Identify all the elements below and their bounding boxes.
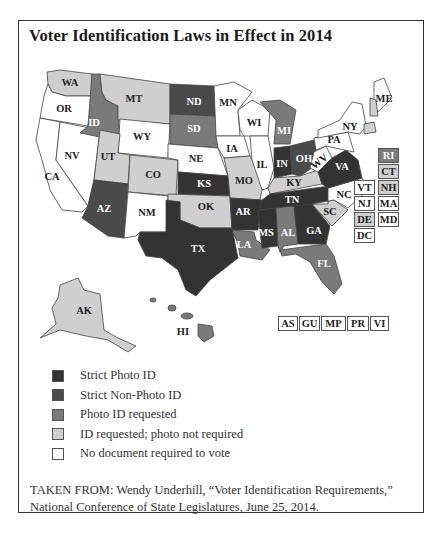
source-citation: TAKEN FROM: Wendy Underhill, “Voter Iden… [30,482,420,516]
state-label-AL: AL [281,227,296,238]
state-label-MT: MT [126,93,143,104]
state-label-IA: IA [226,143,238,154]
state-box-NJ: NJ [354,196,375,211]
state-label-AR: AR [235,206,251,217]
territory-box-VI: VI [370,316,389,331]
state-label-FL: FL [317,258,330,269]
legend-swatch [52,448,64,460]
state-label-MI: MI [277,125,291,136]
state-FL [280,244,342,294]
source-line-1: TAKEN FROM: Wendy Underhill, “Voter Iden… [30,482,420,499]
state-label-UT: UT [101,151,116,162]
state-label-NC: NC [336,189,351,200]
territory-box-GU: GU [299,316,320,331]
legend-label: Strict Non-Photo ID [80,388,181,403]
state-CT-map [364,122,376,134]
legend-label: Photo ID requested [80,407,177,422]
state-label-MS: MS [258,227,274,238]
state-label-IL: IL [256,159,267,170]
legend-swatch [52,389,64,401]
state-box-RI: RI [378,148,399,163]
legend-label: Strict Photo ID [80,368,156,383]
state-label-WY: WY [133,131,152,142]
state-label-AK: AK [76,305,93,316]
state-box-VT: VT [354,180,375,195]
state-label-TX: TX [191,243,206,254]
legend-label: ID requested; photo not required [80,427,243,442]
state-label-CA: CA [44,171,60,182]
state-label-ME: ME [376,93,393,104]
state-label-LA: LA [237,239,252,250]
state-label-IN: IN [276,158,288,169]
legend-item-strict-non-photo: Strict Non-Photo ID [52,386,243,406]
state-box-NH: NH [378,180,399,195]
state-box-DC: DC [354,228,375,243]
state-label-GA: GA [306,225,322,236]
state-label-KY: KY [286,177,302,188]
legend-swatch [52,370,64,382]
legend-item-strict-photo: Strict Photo ID [52,366,243,386]
legend-swatch [52,409,64,421]
state-label-WI: WI [247,117,262,128]
state-label-WA: WA [62,77,79,88]
legend: Strict Photo ID Strict Non-Photo ID Phot… [52,366,243,464]
state-label-TN: TN [285,194,300,205]
state-label-CO: CO [145,169,161,180]
state-box-DE: DE [354,212,375,227]
legend-item-photo-requested: Photo ID requested [52,405,243,425]
state-label-ID: ID [88,117,100,128]
state-label-NE: NE [189,153,204,164]
state-label-PA: PA [327,134,341,145]
legend-item-none: No document required to vote [52,444,243,464]
state-label-MO: MO [235,175,253,186]
state-label-HI: HI [177,326,189,337]
state-label-NY: NY [342,121,358,132]
state-label-AZ: AZ [97,203,112,214]
state-label-OR: OR [56,103,72,114]
state-label-SC: SC [323,206,336,217]
legend-label: No document required to vote [80,446,230,461]
state-box-CT: CT [378,164,399,179]
state-label-MN: MN [219,97,237,108]
state-label-SD: SD [187,123,201,134]
state-label-KS: KS [197,178,211,189]
state-label-NV: NV [64,150,80,161]
state-label-VA: VA [335,161,349,172]
state-NY [318,102,366,138]
state-label-OK: OK [198,201,215,212]
source-line-2: National Conference of State Legislature… [30,499,420,516]
legend-swatch [52,428,64,440]
state-label-NM: NM [138,207,156,218]
territory-box-AS: AS [278,316,298,331]
legend-item-id-requested: ID requested; photo not required [52,425,243,445]
state-box-MD: MD [378,212,399,227]
territory-box-MP: MP [321,316,346,331]
territory-box-PR: PR [347,316,369,331]
state-label-ND: ND [186,96,202,107]
state-box-MA: MA [378,196,399,211]
